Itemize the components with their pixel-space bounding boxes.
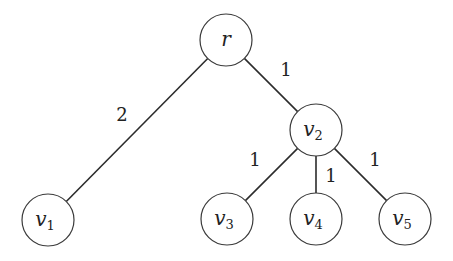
edge-r-v1 — [66, 58, 207, 201]
edge-weight-label: 1 — [249, 149, 260, 170]
edge-weight-label: 2 — [116, 104, 127, 125]
node-v1: v1 — [22, 194, 74, 246]
node-v5: v5 — [379, 193, 431, 245]
node-label: r — [221, 27, 232, 51]
node-v4: v4 — [290, 193, 342, 245]
node-v3: v3 — [201, 193, 253, 245]
node-subscript: 2 — [315, 128, 323, 143]
node-subscript: 4 — [315, 217, 323, 232]
edge-weight-label: 1 — [325, 165, 336, 186]
node-subscript: 5 — [404, 217, 412, 232]
tree-diagram: 21111 rv1v2v3v4v5 — [0, 0, 453, 261]
node-subscript: 3 — [226, 217, 234, 232]
edge-weight-label: 1 — [280, 59, 291, 80]
node-v2: v2 — [290, 104, 342, 156]
node-subscript: 1 — [47, 218, 55, 233]
nodes-layer: rv1v2v3v4v5 — [22, 14, 431, 246]
node-r: r — [200, 14, 252, 66]
edge-weight-label: 1 — [369, 149, 380, 170]
